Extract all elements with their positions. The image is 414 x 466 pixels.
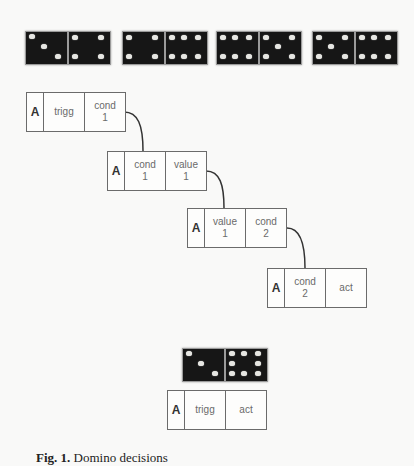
pip: [229, 371, 235, 376]
trigger-cell: trigg: [43, 93, 84, 131]
pip: [385, 54, 391, 59]
domino-half: [69, 32, 110, 64]
pip: [289, 54, 295, 59]
pip: [169, 35, 175, 40]
domino-half: [313, 32, 354, 64]
agent-cell: A: [27, 93, 43, 131]
domino-1: [25, 31, 111, 65]
pip: [29, 34, 35, 39]
domino-half: [226, 349, 267, 381]
domino-2: [122, 31, 208, 65]
pip: [98, 54, 104, 59]
pip: [181, 35, 187, 40]
domino-half: [356, 32, 397, 64]
pip: [385, 35, 391, 40]
condition-cell: cond 1: [84, 93, 125, 131]
result-domino: [182, 348, 268, 382]
chain-box-2: A cond 1 value 1: [107, 151, 207, 191]
action-cell: act: [325, 269, 366, 307]
pip: [328, 44, 334, 49]
domino-4: [312, 31, 398, 65]
pip: [359, 54, 365, 59]
pip: [359, 35, 365, 40]
pip: [195, 54, 201, 59]
agent-cell: A: [268, 269, 284, 307]
chain-box-3: A value 1 cond 2: [187, 208, 287, 248]
agent-cell: A: [108, 152, 124, 190]
pip: [72, 54, 78, 59]
pip: [275, 44, 281, 49]
figure-caption-text: Domino decisions: [74, 450, 168, 465]
pip: [152, 54, 158, 59]
domino-half: [123, 32, 164, 64]
pip: [255, 351, 261, 356]
pip: [263, 35, 269, 40]
pip: [232, 54, 238, 59]
domino-half: [217, 32, 258, 64]
pip: [263, 54, 269, 59]
chain-box-1: A trigg cond 1: [26, 92, 126, 132]
domino-half: [26, 32, 67, 64]
pip: [246, 54, 252, 59]
pip: [229, 351, 235, 356]
domino-half: [183, 349, 224, 381]
condition-cell: cond 2: [245, 209, 286, 247]
agent-cell: A: [188, 209, 204, 247]
figure-label: Fig. 1.: [36, 450, 70, 465]
pip: [246, 35, 252, 40]
pip: [195, 35, 201, 40]
pip: [220, 54, 226, 59]
pip: [289, 35, 295, 40]
domino-half: [260, 32, 301, 64]
domino-3: [216, 31, 302, 65]
pip: [316, 35, 322, 40]
pip: [342, 54, 348, 59]
pip: [41, 44, 47, 49]
pip: [126, 54, 132, 59]
pip: [255, 371, 261, 376]
pip: [186, 351, 192, 356]
pip: [371, 54, 377, 59]
pip: [126, 35, 132, 40]
pip: [72, 35, 78, 40]
pip: [98, 35, 104, 40]
trigger-cell: trigg: [184, 391, 225, 429]
action-cell: act: [225, 391, 266, 429]
pip: [169, 54, 175, 59]
pip: [229, 361, 235, 366]
pip: [181, 54, 187, 59]
pip: [316, 54, 322, 59]
pip: [371, 35, 377, 40]
pip: [241, 371, 247, 376]
pip: [241, 351, 247, 356]
result-box: A trigg act: [167, 390, 267, 430]
pip: [152, 35, 158, 40]
figure-caption: Fig. 1. Domino decisions: [36, 450, 168, 466]
pip: [255, 361, 261, 366]
chain-box-4: A cond 2 act: [267, 268, 367, 308]
pip: [212, 371, 218, 376]
agent-cell: A: [168, 391, 184, 429]
pip: [220, 35, 226, 40]
condition-cell: cond 2: [284, 269, 325, 307]
condition-cell: cond 1: [124, 152, 165, 190]
domino-half: [166, 32, 207, 64]
value-cell: value 1: [165, 152, 206, 190]
pip: [342, 35, 348, 40]
value-cell: value 1: [204, 209, 245, 247]
pip: [198, 361, 204, 366]
pip: [55, 54, 61, 59]
pip: [232, 35, 238, 40]
